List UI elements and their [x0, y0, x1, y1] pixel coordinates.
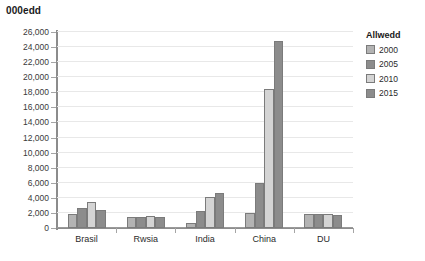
- y-axis-tick-label: 2,000: [1, 208, 49, 218]
- legend-swatch-icon: [366, 74, 375, 83]
- x-axis-tick-label: China: [235, 234, 294, 244]
- bar-chart: 000edd 02,0004,0006,0008,00010,00012,000…: [0, 0, 425, 261]
- bar-group: [127, 32, 165, 228]
- x-axis-line: [56, 228, 354, 229]
- bar[interactable]: [205, 197, 215, 228]
- bar[interactable]: [146, 216, 156, 228]
- bar[interactable]: [314, 214, 324, 228]
- bar[interactable]: [127, 217, 137, 228]
- y-axis-tick-label: 0: [1, 223, 49, 233]
- legend-item-label: 2015: [379, 88, 398, 98]
- bar[interactable]: [264, 89, 274, 228]
- x-axis-tick-label: Rwsia: [116, 234, 175, 244]
- legend-item-label: 2010: [379, 74, 398, 84]
- bar[interactable]: [87, 202, 97, 228]
- x-axis-tick: [175, 228, 176, 233]
- bar[interactable]: [323, 214, 333, 228]
- bar[interactable]: [77, 208, 87, 228]
- y-axis-labels: 02,0004,0006,0008,00010,00012,00014,0001…: [0, 0, 49, 261]
- y-axis-tick-label: 18,000: [1, 87, 49, 97]
- bar-group: [304, 32, 342, 228]
- x-axis-tick-label: India: [175, 234, 234, 244]
- y-axis-tick-label: 24,000: [1, 42, 49, 52]
- bar[interactable]: [196, 211, 206, 228]
- legend-swatch-icon: [366, 89, 375, 98]
- y-axis-tick-label: 10,000: [1, 148, 49, 158]
- y-axis-tick-label: 16,000: [1, 102, 49, 112]
- bar[interactable]: [245, 213, 255, 228]
- legend-item[interactable]: 2005: [366, 59, 424, 70]
- plot-area: [57, 32, 353, 228]
- legend-item-label: 2005: [379, 59, 398, 69]
- bar-group: [245, 32, 283, 228]
- legend-swatch-icon: [366, 45, 375, 54]
- legend-item[interactable]: 2000: [366, 44, 424, 55]
- legend-item[interactable]: 2015: [366, 88, 424, 99]
- bar[interactable]: [333, 215, 343, 228]
- bar[interactable]: [304, 214, 314, 228]
- y-axis-tick-label: 4,000: [1, 193, 49, 203]
- bar[interactable]: [68, 214, 78, 228]
- x-axis-tick: [235, 228, 236, 233]
- x-axis-tick: [116, 228, 117, 233]
- y-axis-tick-label: 22,000: [1, 57, 49, 67]
- legend-swatch-icon: [366, 60, 375, 69]
- legend-items: 2000200520102015: [366, 44, 424, 99]
- bar[interactable]: [96, 210, 106, 228]
- y-axis-tick-label: 26,000: [1, 27, 49, 37]
- legend-item[interactable]: 2010: [366, 73, 424, 84]
- x-axis-tick: [353, 228, 354, 233]
- x-axis-tick: [294, 228, 295, 233]
- x-axis-tick-label: DU: [294, 234, 353, 244]
- bar[interactable]: [274, 41, 284, 228]
- y-axis-tick-label: 20,000: [1, 72, 49, 82]
- y-axis-tick-label: 6,000: [1, 178, 49, 188]
- bar-group: [186, 32, 224, 228]
- y-axis-tick-label: 8,000: [1, 163, 49, 173]
- bar[interactable]: [136, 217, 146, 228]
- y-axis-tick-label: 12,000: [1, 133, 49, 143]
- bar[interactable]: [255, 183, 265, 228]
- legend-item-label: 2000: [379, 45, 398, 55]
- bar[interactable]: [155, 217, 165, 228]
- legend: Allwedd 2000200520102015: [366, 30, 424, 102]
- x-axis-tick-label: Brasil: [57, 234, 116, 244]
- bar[interactable]: [215, 193, 225, 228]
- legend-title: Allwedd: [366, 30, 424, 40]
- y-axis-tick-label: 14,000: [1, 117, 49, 127]
- bar-group: [68, 32, 106, 228]
